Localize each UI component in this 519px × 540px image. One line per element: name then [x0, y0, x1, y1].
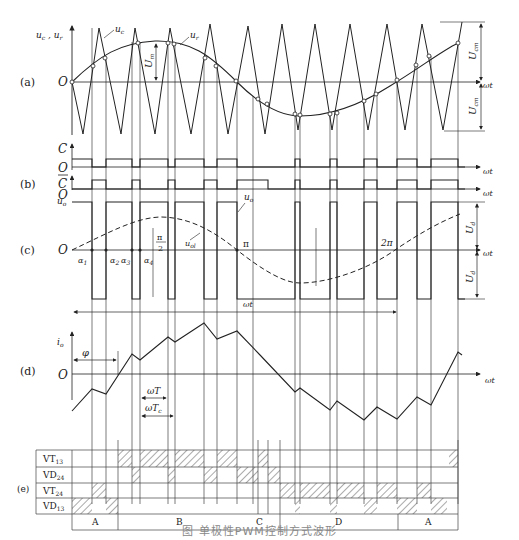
row-label-vt13: VT13: [42, 454, 63, 465]
ref-amplitude-label: Um: [143, 54, 155, 68]
row-label-vt24: VT24: [42, 486, 63, 497]
signal-c-wave: [72, 159, 465, 167]
switching-gridlines: [92, 28, 458, 504]
panel-a-tag: (a): [20, 76, 35, 89]
output-label: uo: [244, 192, 254, 203]
svg-text:π: π: [157, 233, 162, 242]
panel-c: (c) uo O ωt α1 α2 α3 α4 π 2 uol π 2π uo …: [20, 192, 494, 312]
alpha1-label: α1: [78, 256, 87, 266]
panel-b-tag: (b): [20, 178, 36, 191]
dc-voltage-neg: Ud: [464, 271, 476, 283]
alpha3-label: α3: [121, 256, 130, 266]
panel-a: (a) uc , ur O ωt uc ur Um Ucm: [20, 22, 494, 135]
origin-label-c: O: [58, 161, 68, 175]
fundamental-label: uol: [185, 239, 196, 249]
reference-label: ur: [190, 30, 200, 41]
panel-a-y-label: uc , ur: [36, 30, 64, 41]
svg-text:ωt: ωt: [483, 167, 494, 176]
row-label-vd13: VD13: [42, 501, 65, 512]
panel-d-y-label: io: [57, 337, 64, 348]
dc-voltage-pos: Ud: [464, 222, 476, 234]
signal-cbar-wave: [72, 180, 465, 189]
signal-c-label: C: [58, 142, 67, 156]
x-axis-label-a: ωt: [483, 81, 494, 90]
svg-text:2: 2: [158, 244, 163, 253]
svg-text:ωt: ωt: [243, 300, 254, 309]
panel-c-tag: (c): [20, 244, 35, 257]
carrier-amplitude-pos: Ucm: [467, 42, 479, 60]
conduction-hatches: [72, 450, 458, 514]
svg-text:π: π: [243, 239, 249, 249]
switch-period-label: ωT: [147, 386, 161, 396]
pwm-waveform-figure: (a) uc , ur O ωt uc ur Um Ucm: [0, 0, 519, 540]
carrier-period-label: ωTc: [145, 403, 162, 414]
figure-caption: 图 单极性PWM控制方式波形: [0, 522, 519, 538]
svg-text:2π: 2π: [380, 238, 394, 248]
svg-text:ωt: ωt: [485, 376, 496, 385]
svg-text:φ: φ: [82, 347, 89, 358]
panel-b: (b) C O C O ωt ωt: [20, 142, 494, 202]
svg-text:ωt: ωt: [483, 249, 494, 258]
svg-text:O: O: [58, 368, 68, 382]
panel-e-conduction-table: (e): [17, 440, 458, 530]
origin-label-a: O: [58, 75, 68, 89]
panel-e-tag: (e): [17, 484, 29, 494]
alpha4-label: α4: [144, 256, 153, 266]
panel-d-tag: (d): [20, 365, 36, 378]
fundamental-uol: [72, 214, 460, 283]
svg-text:ωt: ωt: [483, 189, 494, 198]
row-label-vd24: VD24: [42, 470, 65, 481]
origin-label-c-panel: O: [58, 243, 68, 257]
panel-d: (d) io O ωt φ ωT ωTc: [20, 323, 496, 420]
output-current-io: [72, 323, 462, 420]
alpha2-label: α2: [110, 256, 119, 266]
carrier-amplitude-neg: Ucm: [467, 97, 479, 115]
carrier-label: uc: [115, 24, 125, 35]
